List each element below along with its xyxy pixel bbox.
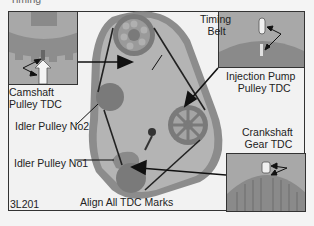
figure-id: 3L201: [10, 198, 39, 210]
idler-pulley-no2-label: Idler Pulley No2: [15, 120, 89, 132]
camshaft-label: Camshaft Pulley TDC: [9, 86, 62, 110]
idler-pulley-no1-label: Idler Pulley No1: [14, 157, 88, 169]
injection-pump-pulley: [168, 105, 208, 145]
camshaft-inset: [8, 11, 78, 85]
timing-belt-label: Timing Belt: [200, 13, 231, 37]
tensioner: [148, 128, 156, 136]
crankshaft-label: Crankshaft Gear TDC: [242, 126, 293, 150]
idler-pulley-no2: [96, 83, 124, 111]
figure-caption: Align All TDC Marks: [80, 196, 173, 208]
camshaft-pulley: [113, 14, 155, 56]
injection-pump-label: Injection Pump Pulley TDC: [226, 70, 295, 94]
crankshaft-inset: [226, 153, 306, 212]
